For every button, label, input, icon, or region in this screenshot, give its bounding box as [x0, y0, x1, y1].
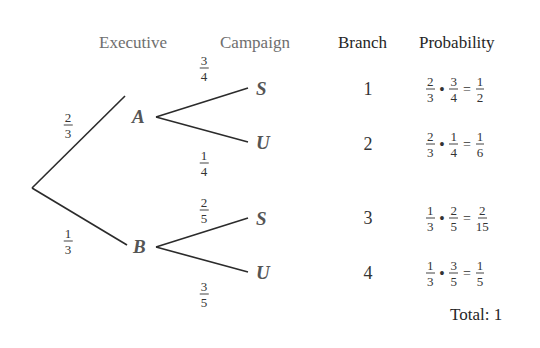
multiply-dot: • [440, 211, 445, 225]
branch-number-3: 3 [364, 208, 373, 228]
edge-a-to-s [156, 88, 248, 117]
result: 12 [476, 75, 485, 104]
edge-root-to-a [32, 96, 125, 188]
factor-2: 34 [449, 75, 458, 104]
branch-number-4: 4 [364, 263, 373, 283]
equals-sign: = [463, 266, 471, 280]
edge-a-to-u [156, 117, 248, 142]
multiply-dot: • [440, 82, 445, 96]
factor-2: 25 [449, 204, 458, 233]
leaf-a-u: U [256, 133, 270, 153]
branch-number-2: 2 [364, 134, 373, 154]
edge-prob-a-s: 3 4 [200, 54, 209, 83]
probability-row-4: 13 • 35 = 15 [426, 259, 484, 288]
leaf-b-s: S [256, 209, 267, 229]
multiply-dot: • [440, 137, 445, 151]
probability-row-2: 23 • 14 = 16 [426, 130, 484, 159]
factor-1: 13 [426, 204, 435, 233]
branch-number-1: 1 [364, 79, 373, 99]
header-campaign: Campaign [220, 33, 290, 53]
leaf-a-s: S [256, 79, 267, 99]
factor-2: 35 [449, 259, 458, 288]
edge-prob-b-s: 2 5 [200, 196, 209, 225]
factor-1: 13 [426, 259, 435, 288]
multiply-dot: • [440, 266, 445, 280]
node-a: A [132, 107, 145, 127]
equals-sign: = [463, 82, 471, 96]
result: 15 [476, 259, 485, 288]
equals-sign: = [463, 211, 471, 225]
edge-prob-a: 2 3 [64, 111, 73, 140]
equals-sign: = [463, 137, 471, 151]
edge-prob-b-u: 3 5 [200, 280, 209, 309]
factor-1: 23 [426, 130, 435, 159]
edge-prob-b: 1 3 [64, 227, 73, 256]
factor-2: 14 [449, 130, 458, 159]
header-branch: Branch [338, 33, 387, 53]
header-probability: Probability [419, 33, 495, 53]
header-executive: Executive [99, 33, 167, 53]
probability-row-3: 13 • 25 = 215 [426, 204, 489, 233]
probability-row-1: 23 • 34 = 12 [426, 75, 484, 104]
result: 16 [476, 130, 485, 159]
factor-1: 23 [426, 75, 435, 104]
edge-b-to-u [156, 247, 248, 272]
leaf-b-u: U [256, 263, 270, 283]
edge-prob-a-u: 1 4 [200, 149, 209, 178]
total-probability: Total: 1 [450, 305, 502, 325]
edge-root-to-b [32, 188, 127, 245]
result: 215 [476, 204, 489, 233]
node-b: B [133, 237, 146, 257]
